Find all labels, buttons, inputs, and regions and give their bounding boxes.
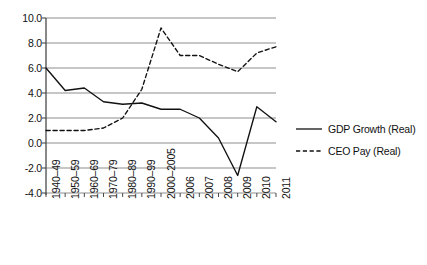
x-axis-tick-label: 1970–79 (108, 160, 119, 199)
x-axis-tick-label: 2008 (223, 176, 234, 199)
x-axis-tick-label: 1940–49 (51, 160, 62, 199)
legend-item-ceo-pay: CEO Pay (Real) (296, 140, 427, 162)
legend-label-gdp-growth: GDP Growth (Real) (328, 124, 415, 135)
x-axis-tick-label: 1960–69 (89, 160, 100, 199)
x-axis-tick-label: 2000–2005 (166, 148, 177, 199)
chart-legend: GDP Growth (Real) CEO Pay (Real) (296, 118, 427, 162)
plot-area: 10.08.06.04.02.00.0-2.0-4.0 1940–491950–… (0, 0, 290, 265)
legend-label-ceo-pay: CEO Pay (Real) (328, 146, 400, 157)
legend-swatch-solid-icon (296, 124, 322, 134)
x-axis-tick-label: 2010 (261, 176, 272, 199)
chart-container: 10.08.06.04.02.00.0-2.0-4.0 1940–491950–… (0, 0, 427, 265)
x-axis-tick-label: 2011 (281, 177, 292, 199)
x-axis-tick-label: 1950–59 (70, 160, 81, 199)
legend-item-gdp-growth: GDP Growth (Real) (296, 118, 427, 140)
x-axis-tick-label: 1980–89 (127, 160, 138, 199)
x-axis-tick-label: 2007 (204, 176, 215, 199)
x-axis-tick-label: 2006 (185, 176, 196, 199)
legend-swatch-dashed-icon (296, 146, 322, 156)
x-axis-tick-label: 2009 (242, 176, 253, 199)
x-axis-tick-labels: 1940–491950–591960–691970–791980–891990–… (0, 0, 290, 265)
x-axis-tick-label: 1990–99 (146, 160, 157, 199)
